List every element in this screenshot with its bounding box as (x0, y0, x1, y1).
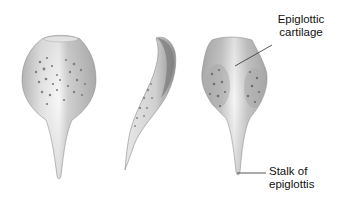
lateral-view (125, 37, 176, 170)
anterior-view (22, 35, 96, 179)
epiglottic-cartilage-label: Epiglottic cartilage (268, 13, 334, 39)
label-line: cartilage (268, 26, 334, 39)
label-line: Epiglottic (268, 13, 334, 26)
label-line: Stalk of (269, 165, 339, 178)
label-line: epiglottis (269, 178, 339, 191)
posterior-view (202, 37, 267, 175)
epiglottis-diagram: Epiglottic cartilage Stalk of epiglottis (0, 0, 340, 199)
stalk-of-epiglottis-label: Stalk of epiglottis (269, 165, 339, 191)
